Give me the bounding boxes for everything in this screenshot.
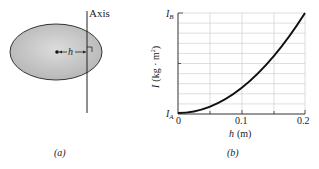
grid bbox=[178, 13, 305, 114]
caption-b: (b) bbox=[227, 147, 239, 159]
x-tick-0-2: 0.2 bbox=[297, 115, 310, 126]
figure: Axis h (a) bbox=[0, 0, 319, 169]
x-tick-0: 0 bbox=[176, 115, 181, 126]
y-tick-ib: IB bbox=[165, 8, 174, 21]
data-curve bbox=[178, 13, 305, 113]
x-axis-label: h(m) bbox=[229, 128, 251, 140]
axis-label: Axis bbox=[89, 7, 110, 19]
distance-h-label: h bbox=[68, 46, 73, 57]
panel-a: Axis h (a) bbox=[10, 7, 110, 159]
y-axis-label: I(kg · m2) bbox=[150, 46, 162, 89]
y-tick-ia: IA bbox=[165, 108, 174, 121]
caption-a: (a) bbox=[54, 147, 66, 159]
center-of-mass-dot bbox=[55, 50, 59, 54]
x-tick-0-1: 0.1 bbox=[235, 115, 248, 126]
panel-b-chart: IB IA 0 0.1 0.2 h(m) I(kg · m2) (b) bbox=[150, 8, 310, 159]
